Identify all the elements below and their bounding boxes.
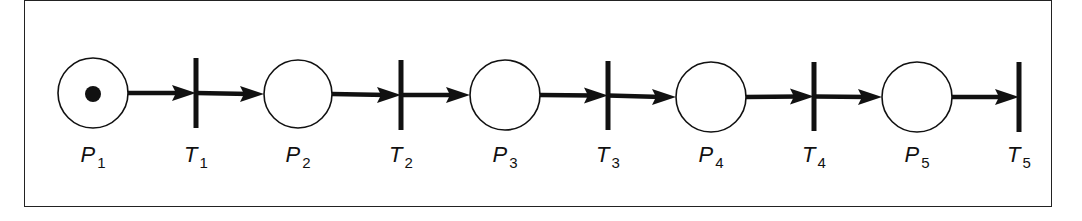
label-p3: P3 [492,142,517,171]
place-p4 [676,62,746,132]
label-p1: P1 [80,142,105,171]
arc-P4-T4 [746,97,800,98]
label-t3: T3 [596,142,620,171]
arc-T1-P2 [196,93,250,94]
label-p5: P5 [904,142,929,171]
arc-P2-T2 [332,94,387,95]
place-p3 [470,60,540,130]
place-p2 [264,60,332,128]
petri-net-canvas [0,0,1082,221]
arc-T3-P4 [608,96,662,98]
arc-T4-P5 [814,97,868,98]
label-p4: P4 [698,142,723,171]
label-p2: P2 [285,142,310,171]
label-t2: T2 [389,142,413,171]
token-icon [85,86,101,102]
label-t1: T1 [184,142,208,171]
place-p5 [882,62,952,132]
label-t4: T4 [802,142,826,171]
label-t5: T5 [1007,142,1031,171]
arc-P3-T3 [540,95,594,96]
